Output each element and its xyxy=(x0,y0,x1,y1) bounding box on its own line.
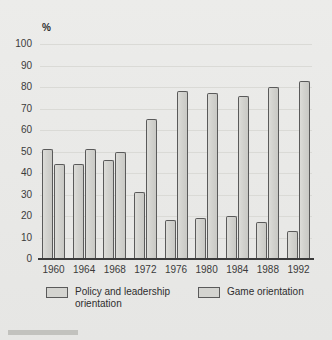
legend-entry-policy: Policy and leadership orientation xyxy=(46,286,198,318)
bar-group-1976 xyxy=(165,44,188,259)
bar-groups xyxy=(40,44,312,259)
x-axis-tick-1972: 1972 xyxy=(134,263,157,279)
bar-1984-game xyxy=(238,96,249,259)
x-axis-tick-1988: 1988 xyxy=(256,263,279,279)
bar-group-1988 xyxy=(256,44,279,259)
y-axis-tick-100: 100 xyxy=(15,39,32,49)
bar-1976-policy xyxy=(165,220,176,259)
bar-1980-game xyxy=(207,93,218,259)
bar-1972-policy xyxy=(134,192,145,259)
y-axis-tick-90: 90 xyxy=(21,61,32,71)
bar-group-1968 xyxy=(103,44,126,259)
y-axis-unit-label: % xyxy=(42,22,51,33)
bar-group-1992 xyxy=(287,44,310,259)
y-axis-tick-20: 20 xyxy=(21,211,32,221)
x-axis-tick-1976: 1976 xyxy=(165,263,188,279)
bar-group-1964 xyxy=(73,44,96,259)
legend-swatch-game xyxy=(198,287,220,298)
legend-swatch-policy xyxy=(46,287,68,298)
x-axis-tick-1960: 1960 xyxy=(42,263,65,279)
bar-group-1960 xyxy=(42,44,65,259)
x-axis-tick-1992: 1992 xyxy=(287,263,310,279)
bottom-marker-bar xyxy=(8,330,78,335)
bar-1992-policy xyxy=(287,231,298,259)
x-axis-tick-1980: 1980 xyxy=(195,263,218,279)
y-axis-tick-60: 60 xyxy=(21,125,32,135)
legend-label-policy-line1: Policy and leadership xyxy=(75,286,170,297)
y-axis-tick-0: 0 xyxy=(26,254,32,264)
y-axis-tick-80: 80 xyxy=(21,82,32,92)
x-axis-line xyxy=(38,258,314,260)
bar-1972-game xyxy=(146,119,157,259)
bar-1988-policy xyxy=(256,222,267,259)
bar-1980-policy xyxy=(195,218,206,259)
x-axis-tick-labels: 196019641968197219761980198419881992 xyxy=(40,263,312,279)
bar-1960-game xyxy=(54,164,65,259)
bar-1968-policy xyxy=(103,160,114,259)
y-axis-tick-70: 70 xyxy=(21,104,32,114)
y-axis-tick-30: 30 xyxy=(21,190,32,200)
bar-1988-game xyxy=(268,87,279,259)
plot-area xyxy=(40,44,312,259)
bar-group-1984 xyxy=(226,44,249,259)
bar-1976-game xyxy=(177,91,188,259)
y-axis-tick-50: 50 xyxy=(21,147,32,157)
x-axis-tick-1984: 1984 xyxy=(226,263,249,279)
bar-group-1972 xyxy=(134,44,157,259)
bar-1968-game xyxy=(115,152,126,260)
chart-legend: Policy and leadership orientation Game o… xyxy=(46,286,314,318)
bar-1984-policy xyxy=(226,216,237,259)
chart-figure: % 1009080706050403020100 196019641968197… xyxy=(0,0,332,340)
legend-label-policy-line2: orientation xyxy=(75,298,122,309)
bar-1964-game xyxy=(85,149,96,259)
y-axis-tick-40: 40 xyxy=(21,168,32,178)
bar-group-1980 xyxy=(195,44,218,259)
legend-entry-game: Game orientation xyxy=(198,286,304,318)
bar-1964-policy xyxy=(73,164,84,259)
bar-1960-policy xyxy=(42,149,53,259)
y-axis-tick-10: 10 xyxy=(21,233,32,243)
bar-1992-game xyxy=(299,81,310,259)
x-axis-tick-1968: 1968 xyxy=(103,263,126,279)
legend-label-policy: Policy and leadership orientation xyxy=(75,286,170,310)
x-axis-tick-1964: 1964 xyxy=(73,263,96,279)
legend-label-game: Game orientation xyxy=(227,286,304,298)
y-axis-tick-labels: 1009080706050403020100 xyxy=(0,38,36,266)
